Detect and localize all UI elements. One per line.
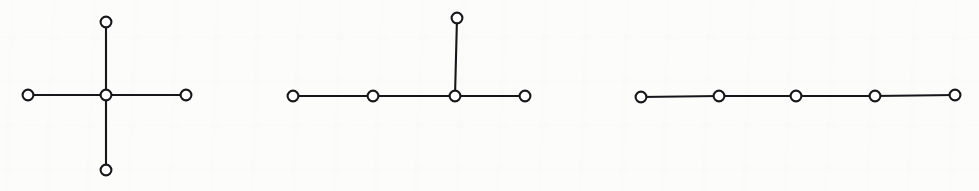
- graph-edge: [641, 96, 719, 97]
- graph-figure-sheet: [0, 0, 979, 191]
- graph-node: [791, 91, 802, 102]
- graph-node: [950, 90, 961, 101]
- star-graph: [23, 17, 192, 176]
- graph-node: [181, 90, 192, 101]
- graph-node: [101, 165, 112, 176]
- graph-node: [714, 91, 725, 102]
- graph-node: [450, 91, 461, 102]
- spider-graph: [288, 13, 531, 102]
- graph-edge: [875, 95, 955, 96]
- graph-node: [288, 91, 299, 102]
- graph-node: [452, 13, 463, 24]
- graph-node: [101, 90, 112, 101]
- graph-edge: [455, 18, 457, 96]
- graph-node: [23, 90, 34, 101]
- graph-node: [520, 91, 531, 102]
- graph-diagram-canvas: [0, 0, 979, 191]
- graph-node: [368, 91, 379, 102]
- graph-node: [101, 17, 112, 28]
- graph-node: [870, 91, 881, 102]
- graph-node: [636, 92, 647, 103]
- path-graph: [636, 90, 961, 103]
- graphs-layer: [23, 13, 961, 176]
